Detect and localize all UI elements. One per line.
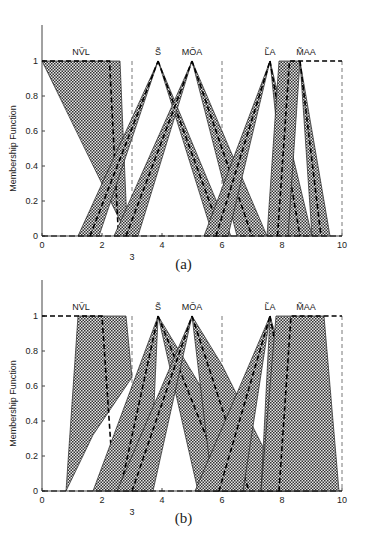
x-tick-label: 6 — [219, 240, 224, 250]
x-tick-label: 2 — [99, 240, 104, 250]
x-tick-label: 10 — [337, 240, 347, 250]
x-tick-label: 4 — [159, 240, 164, 250]
x-tick-label: 0 — [39, 495, 44, 505]
y-tick-label: 0.4 — [25, 416, 38, 426]
x-tick-label: 6 — [219, 495, 224, 505]
y-tick-label: 0.6 — [25, 381, 38, 391]
series-nvl — [42, 61, 128, 236]
term-label-moa: MÕA — [182, 47, 203, 57]
y-tick-label: 0.6 — [25, 126, 38, 136]
x-tick-label: 10 — [337, 495, 347, 505]
term-label-maa: M̃AA — [296, 302, 316, 312]
y-tick-label: 0.8 — [25, 346, 38, 356]
term-label-s: S̃ — [155, 302, 161, 312]
caption-b: (b) — [0, 510, 367, 527]
y-tick-label: 0.4 — [25, 161, 38, 171]
x-tick-label: 2 — [99, 495, 104, 505]
y-tick-label: 0.2 — [25, 196, 38, 206]
y-axis-label: Membership Function — [8, 105, 18, 192]
x-tick-label: 0 — [39, 240, 44, 250]
term-label-nvl: NṼL — [72, 47, 90, 57]
x-tick-label: 4 — [159, 495, 164, 505]
x-tick-label: 8 — [279, 240, 284, 250]
membership-chart-b: 00.20.40.60.8102346810Membership Functio… — [0, 255, 367, 515]
term-label-moa: MÕA — [182, 302, 203, 312]
y-axis-label: Membership Function — [8, 360, 18, 447]
plot-b: 00.20.40.60.8102346810Membership Functio… — [0, 255, 367, 535]
y-tick-label: 0.2 — [25, 451, 38, 461]
term-label-la: L̃A — [264, 302, 275, 312]
term-label-nvl: NṼL — [72, 302, 90, 312]
y-tick-label: 0 — [33, 486, 38, 496]
y-tick-label: 1 — [33, 311, 38, 321]
term-label-la: L̃A — [264, 47, 275, 57]
y-tick-label: 1 — [33, 56, 38, 66]
y-tick-label: 0 — [33, 231, 38, 241]
y-tick-label: 0.8 — [25, 91, 38, 101]
plot-a: 00.20.40.60.8102346810Membership Functio… — [0, 0, 367, 280]
term-label-s: S̃ — [155, 47, 161, 57]
x-tick-label: 8 — [279, 495, 284, 505]
membership-chart-a: 00.20.40.60.8102346810Membership Functio… — [0, 0, 367, 260]
term-label-maa: M̃AA — [296, 47, 316, 57]
